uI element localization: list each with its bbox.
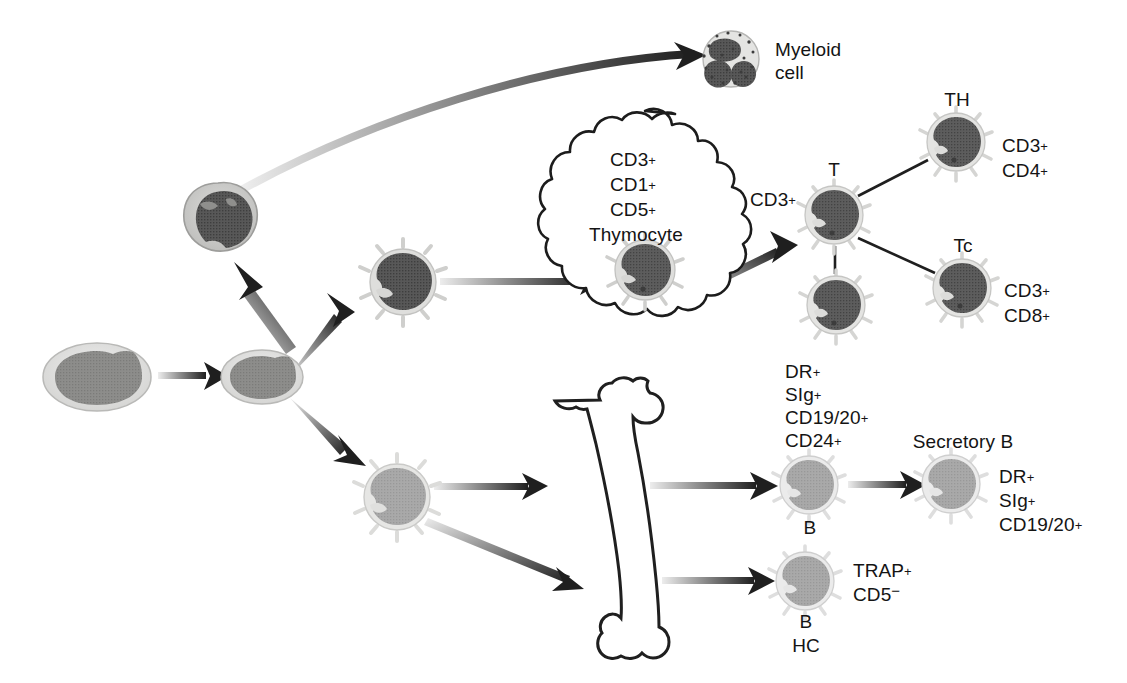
- secretory-marker-dr: DR+: [999, 465, 1034, 488]
- thymocyte-label: Thymocyte: [589, 223, 683, 246]
- b-cell: [773, 450, 845, 524]
- hairy-b-cell: [769, 546, 841, 620]
- lymphocyte-differentiation-diagram: Myeloidcell CD3+ CD1+ CD5+ Thymocyte CD3…: [0, 0, 1127, 683]
- myeloid-progenitor-cell: [184, 183, 258, 252]
- arrow-b-cell-to-secretory-b: [848, 471, 926, 499]
- myeloid-cell-label: Myeloidcell: [775, 38, 841, 84]
- arrow-b-progenitor-to-bone-upper: [434, 473, 548, 500]
- arrow-stem2-to-myeloid-progenitor: [234, 262, 296, 354]
- t-cytotoxic-cell: [926, 253, 998, 327]
- t-helper-cell: [920, 107, 992, 181]
- progenitor-stem-cell: [221, 350, 303, 404]
- tc-marker-cd3: CD3+: [1004, 279, 1050, 302]
- tc-marker-cd8: CD8+: [1004, 304, 1050, 327]
- hematopoietic-stem-cell: [43, 343, 151, 411]
- hairy-cell-label-b: B: [800, 610, 813, 633]
- thymus-marker-cd5: CD5+: [610, 198, 656, 222]
- bone-marrow-femur-outline: [555, 378, 669, 659]
- t-cell-marker-cd3: CD3+: [750, 188, 796, 211]
- b-marker-dr: DR+: [785, 360, 820, 383]
- secretory-marker-sig: SIg+: [999, 489, 1036, 512]
- secretory-marker-cd1920: CD19/20+: [999, 513, 1082, 536]
- hairy-marker-trap: TRAP+: [853, 559, 912, 582]
- secretory-b-label: Secretory B: [913, 430, 1013, 453]
- connector-t-to-th: [858, 160, 928, 196]
- th-cell-label: TH: [944, 88, 970, 111]
- b-lymphoid-progenitor-cell: [354, 454, 440, 541]
- t-cell-secondary: [800, 270, 872, 344]
- secretory-b-cell: [915, 449, 987, 523]
- t-cell-label: T: [828, 158, 840, 181]
- b-marker-cd24: CD24+: [785, 429, 842, 452]
- thymus-marker-cd3: CD3+: [610, 148, 656, 172]
- tc-cell-label: Tc: [953, 234, 972, 257]
- hairy-cell-label-hc: HC: [792, 634, 820, 657]
- b-cell-label: B: [804, 516, 817, 539]
- b-marker-cd1920: CD19/20+: [785, 406, 868, 429]
- arrow-b-progenitor-to-bone-lower: [424, 518, 584, 591]
- hairy-marker-cd5: CD5−: [853, 583, 900, 606]
- myeloid-cell: [702, 31, 759, 88]
- th-marker-cd3: CD3+: [1002, 134, 1048, 157]
- thymus-marker-cd1: CD1+: [610, 173, 656, 197]
- arrow-stem2-to-b-progenitor: [290, 398, 366, 466]
- b-marker-sig: SIg+: [785, 383, 822, 406]
- th-marker-cd4: CD4+: [1002, 159, 1048, 182]
- arrow-stem1-to-stem2: [158, 362, 228, 390]
- t-cell: [798, 180, 870, 254]
- t-lymphoid-progenitor-cell: [360, 239, 446, 326]
- arrow-bone-to-b-cell: [650, 472, 778, 500]
- arrow-bone-to-hairy-cell: [662, 567, 775, 595]
- connector-t-to-tc: [858, 238, 935, 273]
